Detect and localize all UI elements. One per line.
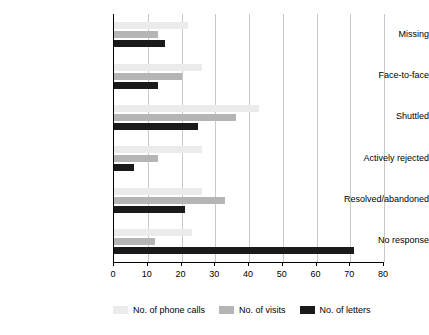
legend-swatch-icon bbox=[113, 306, 128, 314]
x-tick-label: 10 bbox=[132, 269, 162, 279]
bar bbox=[114, 22, 188, 29]
gridline bbox=[350, 14, 351, 262]
x-tick-label: 60 bbox=[301, 269, 331, 279]
bar bbox=[114, 197, 225, 204]
plot-area bbox=[113, 14, 383, 262]
x-tick bbox=[214, 262, 215, 266]
gridline bbox=[317, 14, 318, 262]
x-tick bbox=[383, 262, 384, 266]
bar bbox=[114, 146, 202, 153]
x-tick-label: 80 bbox=[368, 269, 398, 279]
x-tick bbox=[248, 262, 249, 266]
category-label: Actively rejected bbox=[321, 153, 429, 163]
legend-label: No. of phone calls bbox=[133, 305, 205, 315]
bar bbox=[114, 238, 155, 245]
x-tick bbox=[181, 262, 182, 266]
legend-swatch-icon bbox=[219, 306, 234, 314]
x-tick-label: 50 bbox=[267, 269, 297, 279]
legend-item: No. of letters bbox=[300, 305, 371, 315]
bar bbox=[114, 31, 158, 38]
category-label: Shuttled bbox=[321, 111, 429, 121]
category-label: No response bbox=[321, 235, 429, 245]
legend-label: No. of visits bbox=[239, 305, 286, 315]
gridline bbox=[182, 14, 183, 262]
bar bbox=[114, 155, 158, 162]
x-tick bbox=[282, 262, 283, 266]
bar bbox=[114, 206, 185, 213]
bar bbox=[114, 229, 192, 236]
x-tick-label: 30 bbox=[199, 269, 229, 279]
category-label: Resolved/abandoned bbox=[321, 194, 429, 204]
gridline bbox=[215, 14, 216, 262]
category-label: Face-to-face bbox=[321, 70, 429, 80]
bar bbox=[114, 123, 198, 130]
x-tick bbox=[113, 262, 114, 266]
gridline bbox=[283, 14, 284, 262]
x-tick bbox=[316, 262, 317, 266]
legend-item: No. of visits bbox=[219, 305, 286, 315]
x-tick-label: 40 bbox=[233, 269, 263, 279]
legend-swatch-icon bbox=[300, 306, 315, 314]
chart-legend: No. of phone callsNo. of visitsNo. of le… bbox=[113, 300, 413, 320]
x-tick-label: 20 bbox=[166, 269, 196, 279]
gridline bbox=[384, 14, 385, 262]
gridline bbox=[148, 14, 149, 262]
legend-label: No. of letters bbox=[320, 305, 371, 315]
bar bbox=[114, 188, 202, 195]
bar bbox=[114, 114, 236, 121]
x-tick bbox=[349, 262, 350, 266]
x-tick bbox=[147, 262, 148, 266]
gridline bbox=[249, 14, 250, 262]
x-tick-label: 70 bbox=[334, 269, 364, 279]
bar bbox=[114, 105, 259, 112]
bar bbox=[114, 64, 202, 71]
bar bbox=[114, 247, 354, 254]
bar bbox=[114, 164, 134, 171]
bar-chart: 01020304050607080 MissingFace-to-faceShu… bbox=[0, 0, 429, 335]
bar bbox=[114, 82, 158, 89]
x-tick-label: 0 bbox=[98, 269, 128, 279]
bar bbox=[114, 40, 165, 47]
legend-item: No. of phone calls bbox=[113, 305, 205, 315]
bar bbox=[114, 73, 182, 80]
category-label: Missing bbox=[321, 29, 429, 39]
